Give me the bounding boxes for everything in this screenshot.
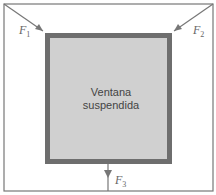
arrow-head-f2 xyxy=(174,24,182,31)
window-label: Ventana suspendida xyxy=(50,86,172,112)
arrow-head-f1 xyxy=(35,24,43,31)
force-label-f1: F1 xyxy=(19,23,30,39)
arrow-head-f3 xyxy=(104,170,112,178)
window-label-line2: suspendida xyxy=(50,99,172,112)
window-label-line1: Ventana xyxy=(50,86,172,99)
force-label-f2: F2 xyxy=(193,23,204,39)
force-label-f3: F3 xyxy=(115,173,126,189)
